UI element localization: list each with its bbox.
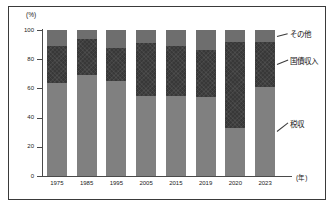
bar-segment-2023-税収 — [255, 87, 275, 176]
bar-segment-2005-税収 — [136, 96, 156, 176]
x-tick-label-2023: 2023 — [248, 180, 282, 186]
callout-label-other: その他 — [290, 28, 311, 39]
bar-segment-2019-国債収入 — [196, 50, 216, 97]
bar-2019 — [196, 30, 216, 176]
bar-segment-1985-その他 — [77, 30, 97, 39]
plot-area: 19751985199520052015201920202023 — [42, 30, 280, 176]
bar-2005 — [136, 30, 156, 176]
y-tick-0 — [37, 176, 42, 177]
bar-1985 — [77, 30, 97, 176]
bar-segment-2020-税収 — [225, 128, 245, 176]
bar-2023 — [255, 30, 275, 176]
bar-segment-1975-国債収入 — [47, 46, 67, 83]
bar-segment-2019-税収 — [196, 97, 216, 176]
bar-segment-2015-その他 — [166, 30, 186, 46]
bar-segment-2005-その他 — [136, 30, 156, 43]
y-tick-label-20: 20 — [12, 143, 34, 150]
x-axis-unit-label: (年) — [296, 172, 307, 182]
y-tick-label-40: 40 — [12, 114, 34, 121]
bar-segment-2020-その他 — [225, 30, 245, 42]
bar-2020 — [225, 30, 245, 176]
bar-segment-1995-税収 — [106, 81, 126, 176]
y-tick-label-0: 0 — [12, 173, 34, 180]
y-axis-unit-label: (%) — [26, 11, 36, 18]
bar-segment-2015-国債収入 — [166, 46, 186, 96]
stacked-bar-chart: (%) 020406080100 19751985199520052015201… — [0, 0, 336, 207]
bar-segment-2020-国債収入 — [225, 42, 245, 128]
bar-segment-1995-その他 — [106, 30, 126, 48]
bar-segment-1985-税収 — [77, 75, 97, 176]
bar-segment-2005-国債収入 — [136, 43, 156, 96]
bar-segment-2023-その他 — [255, 30, 275, 42]
bar-segment-2015-税収 — [166, 96, 186, 176]
y-tick-label-60: 60 — [12, 85, 34, 92]
bar-segment-1975-税収 — [47, 83, 67, 176]
bar-segment-1995-国債収入 — [106, 48, 126, 82]
bar-1975 — [47, 30, 67, 176]
y-tick-label-80: 80 — [12, 56, 34, 63]
x-axis-line — [42, 176, 292, 177]
bar-segment-1985-国債収入 — [77, 39, 97, 76]
bar-2015 — [166, 30, 186, 176]
bar-segment-2023-国債収入 — [255, 42, 275, 87]
callout-label-bond: 国債収入 — [290, 55, 318, 66]
bar-segment-1975-その他 — [47, 30, 67, 46]
bar-1995 — [106, 30, 126, 176]
callout-label-tax: 税収 — [290, 118, 304, 129]
y-tick-label-100: 100 — [12, 27, 34, 34]
bar-segment-2019-その他 — [196, 30, 216, 50]
